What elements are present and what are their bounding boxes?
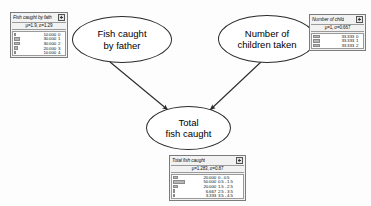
monitor-titlebar[interactable]: Fish caught by fath <box>12 14 66 23</box>
monitor-distribution-table: 20.0000 - 0.550.0000.5 - 1.520.0001.5 - … <box>171 174 244 200</box>
probability-bar-cell <box>173 185 196 188</box>
probability-bar-cell <box>313 44 333 47</box>
probability-bar-cell <box>14 33 35 36</box>
node-label: Number of children taken <box>233 28 300 50</box>
probability-bar-cell <box>313 35 333 38</box>
probability-bar <box>173 176 178 179</box>
close-icon[interactable] <box>236 157 243 164</box>
probability-value: 33.333 <box>333 43 354 48</box>
probability-bar <box>173 189 175 192</box>
probability-bar <box>14 46 18 49</box>
state-label: 4 <box>56 50 68 55</box>
monitor-stats: μ=1.283, σ=0.87 <box>171 166 244 173</box>
node-number-of-children-taken[interactable]: Number of children taken <box>218 15 316 63</box>
monitor-distribution-table: 33.333033.333133.3332 <box>311 33 364 50</box>
probability-bar <box>14 51 16 54</box>
probability-bar <box>14 33 16 36</box>
node-label: Fish caught by father <box>93 28 150 50</box>
probability-bar-cell <box>173 176 196 179</box>
edge-father-to-total <box>110 62 168 110</box>
probability-bar-cell <box>173 194 196 197</box>
probability-bar-cell <box>14 37 35 40</box>
bayesian-network-canvas: Fish caught by father Number of children… <box>0 0 371 206</box>
close-icon[interactable] <box>58 14 65 21</box>
monitor-title: Fish caught by fath <box>13 15 52 20</box>
state-label: 3.5 - 4.5 <box>216 193 246 198</box>
monitor-stats: μ=1.9, σ=1.29 <box>12 23 66 30</box>
monitor-distribution-table: 10.000030.000130.000220.000310.0004 <box>12 31 66 57</box>
probability-bar <box>313 35 320 38</box>
probability-bar-cell <box>313 39 333 42</box>
probability-bar-cell <box>14 42 35 45</box>
monitor-window-total-fish-caught[interactable]: Total fish caught μ=1.283, σ=0.87 20.000… <box>169 155 246 201</box>
probability-bar <box>173 185 178 188</box>
probability-bar <box>173 194 175 197</box>
probability-bar-cell <box>14 46 35 49</box>
monitor-titlebar[interactable]: Total fish caught <box>171 157 244 166</box>
probability-bar-cell <box>14 51 35 54</box>
node-label: Total fish caught <box>162 117 216 139</box>
probability-bar <box>173 180 185 183</box>
edge-children-to-total <box>210 61 262 110</box>
state-label: 2 <box>354 43 366 48</box>
probability-bar <box>313 39 320 42</box>
distribution-row: 3.3333.5 - 4.5 <box>172 193 243 198</box>
monitor-title: Number of child <box>312 17 344 22</box>
probability-bar-cell <box>173 189 196 192</box>
distribution-row: 33.3332 <box>312 43 363 48</box>
monitor-window-number-of-children[interactable]: Number of child μ=1, σ=0.667 33.333033.3… <box>309 14 366 51</box>
monitor-stats: μ=1, σ=0.667 <box>311 25 364 32</box>
probability-value: 10.000 <box>35 50 56 55</box>
close-icon[interactable] <box>356 16 363 23</box>
probability-bar-cell <box>173 180 196 183</box>
monitor-window-fish-caught-by-father[interactable]: Fish caught by fath μ=1.9, σ=1.29 10.000… <box>10 12 68 58</box>
probability-bar <box>14 37 20 40</box>
node-fish-caught-by-father[interactable]: Fish caught by father <box>72 16 172 63</box>
probability-bar <box>14 42 20 45</box>
monitor-titlebar[interactable]: Number of child <box>311 16 364 25</box>
distribution-row: 10.0004 <box>13 50 65 55</box>
probability-value: 3.333 <box>196 193 216 198</box>
monitor-title: Total fish caught <box>172 158 205 163</box>
node-total-fish-caught[interactable]: Total fish caught <box>146 106 231 150</box>
probability-bar <box>313 44 320 47</box>
